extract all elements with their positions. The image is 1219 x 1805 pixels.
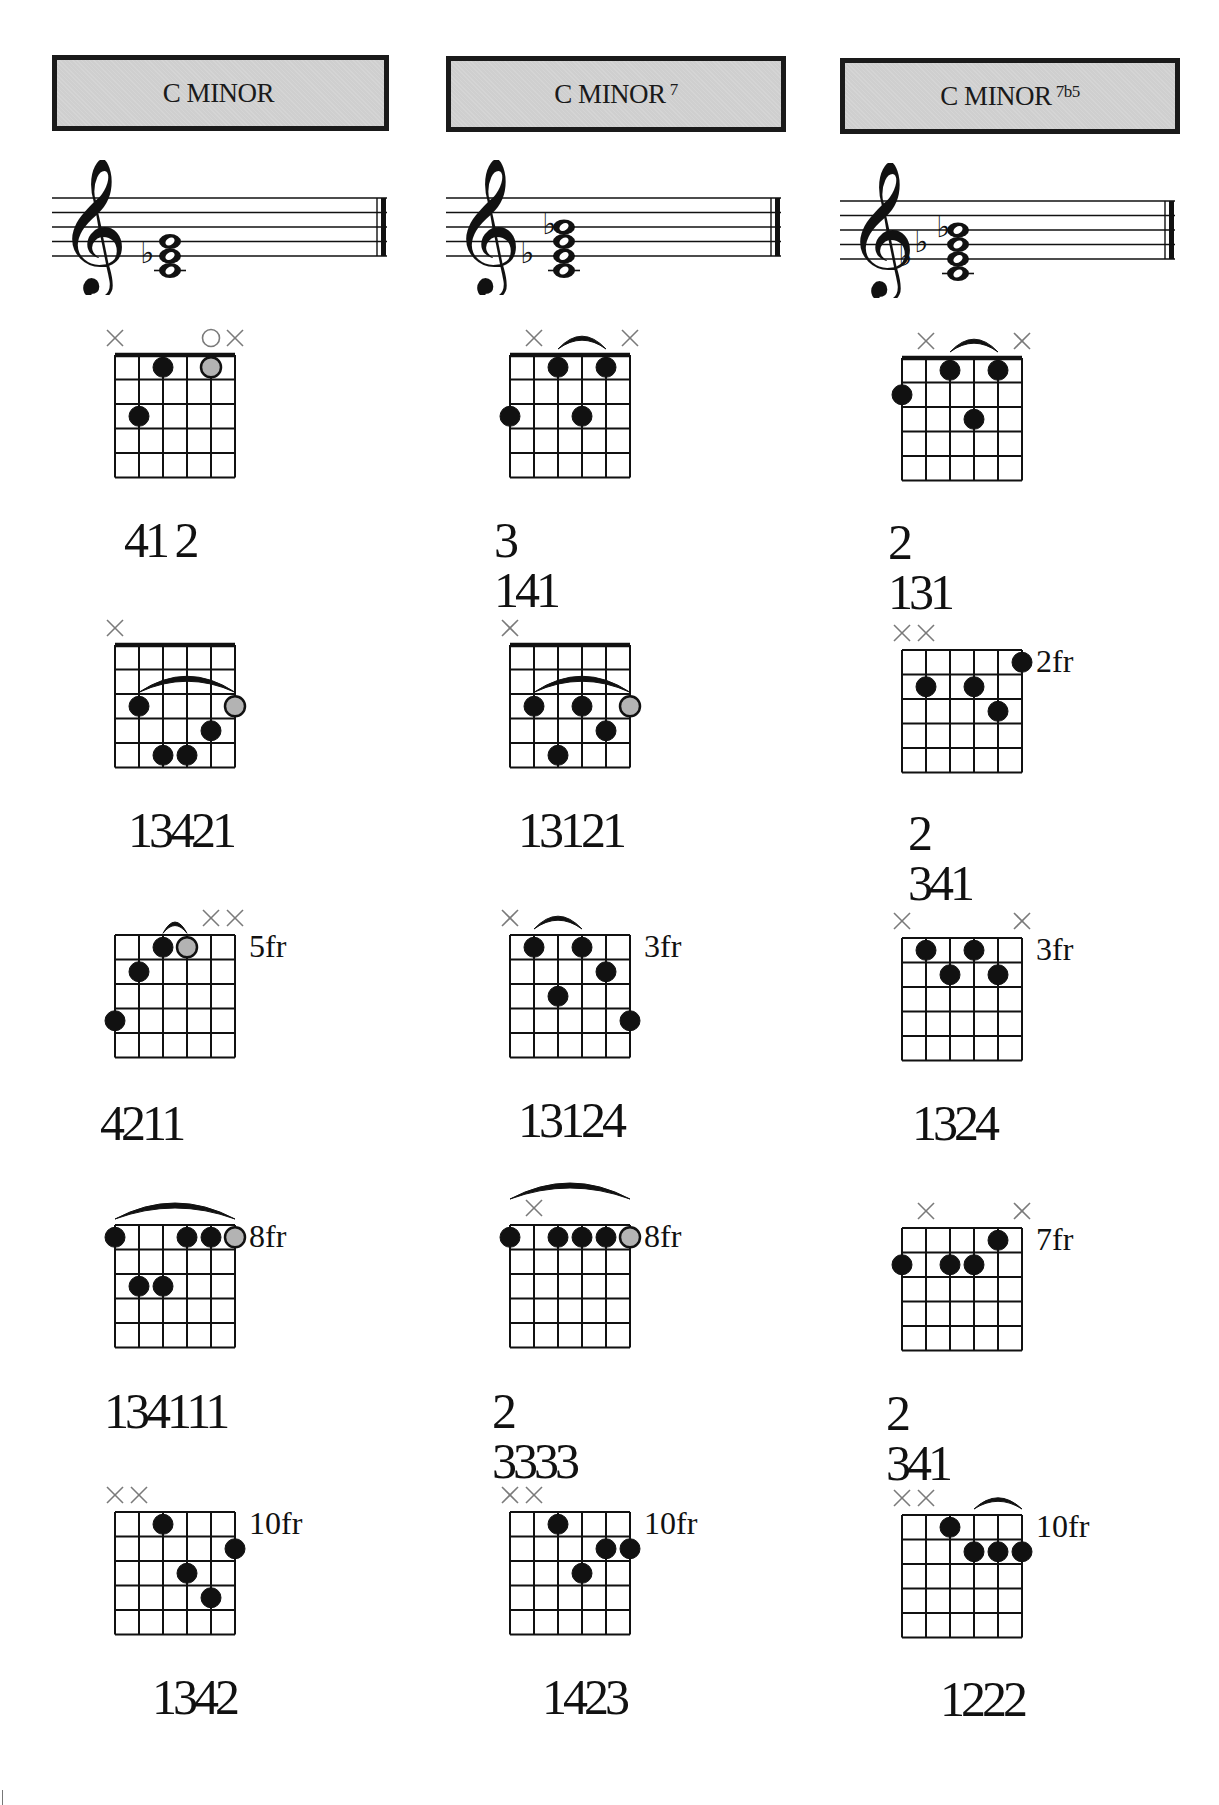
finger-dot bbox=[940, 1255, 960, 1275]
flat-accidental-icon: ♭ bbox=[520, 235, 534, 270]
muted-string-icon bbox=[502, 620, 518, 636]
fret-position-label: 2fr bbox=[1036, 643, 1074, 679]
finger-dot bbox=[940, 965, 960, 985]
barre-arc-icon bbox=[534, 916, 582, 929]
chord-superscript: 7 bbox=[670, 80, 678, 100]
finger-dot bbox=[548, 986, 568, 1006]
root-note-dot bbox=[620, 696, 640, 716]
barline-thick bbox=[1169, 201, 1174, 259]
fingering-label: 1423 bbox=[542, 1672, 626, 1722]
staff-notation: 𝄞♭♭ bbox=[446, 160, 786, 295]
muted-string-icon bbox=[918, 1203, 934, 1219]
finger-dot bbox=[596, 962, 616, 982]
finger-dot bbox=[596, 1539, 616, 1559]
fingering-label: 13124 bbox=[518, 1095, 623, 1145]
chord-diagram bbox=[490, 305, 730, 480]
finger-dot bbox=[572, 696, 592, 716]
barline-thick bbox=[775, 198, 780, 256]
fingering-label: 13121 bbox=[518, 805, 623, 855]
finger-dot bbox=[548, 1514, 568, 1534]
finger-dot bbox=[964, 1542, 984, 1562]
chord-diagram: 8fr bbox=[490, 1175, 730, 1350]
finger-dot bbox=[988, 360, 1008, 380]
flat-accidental-icon: ♭ bbox=[898, 238, 912, 273]
finger-dot bbox=[988, 965, 1008, 985]
finger-dot bbox=[620, 1011, 640, 1031]
finger-dot bbox=[916, 677, 936, 697]
chord-diagram: 3fr bbox=[882, 888, 1122, 1063]
finger-dot bbox=[572, 937, 592, 957]
finger-dot bbox=[892, 385, 912, 405]
finger-dot bbox=[988, 1230, 1008, 1250]
muted-string-icon bbox=[918, 625, 934, 641]
muted-string-icon bbox=[526, 330, 542, 346]
finger-dot bbox=[548, 357, 568, 377]
staff-notation: 𝄞♭♭♭ bbox=[840, 163, 1180, 298]
flat-accidental-icon: ♭ bbox=[936, 209, 950, 244]
finger-dot bbox=[988, 1542, 1008, 1562]
chord-title-box: C MINOR7 bbox=[446, 56, 786, 132]
chord-title: C MINOR bbox=[940, 81, 1051, 112]
finger-dot bbox=[500, 1227, 520, 1247]
page-edge-mark bbox=[2, 1790, 3, 1805]
fret-position-label: 3fr bbox=[644, 928, 682, 964]
finger-dot bbox=[596, 721, 616, 741]
chord-superscript: 7b5 bbox=[1056, 82, 1080, 102]
finger-dot bbox=[572, 1563, 592, 1583]
finger-dot bbox=[572, 1227, 592, 1247]
finger-dot bbox=[964, 677, 984, 697]
fret-position-label: 10fr bbox=[1036, 1508, 1090, 1544]
finger-dot bbox=[500, 406, 520, 426]
fret-position-label: 10fr bbox=[644, 1505, 698, 1541]
barre-arc-icon bbox=[558, 336, 606, 349]
finger-dot bbox=[964, 1255, 984, 1275]
finger-dot bbox=[940, 1517, 960, 1537]
finger-dot bbox=[964, 940, 984, 960]
finger-dot bbox=[548, 745, 568, 765]
fret-position-label: 8fr bbox=[644, 1218, 682, 1254]
flat-accidental-icon: ♭ bbox=[914, 224, 928, 259]
muted-string-icon bbox=[918, 333, 934, 349]
chord-diagram: 7fr bbox=[882, 1178, 1122, 1353]
finger-dot bbox=[1012, 1542, 1032, 1562]
muted-string-icon bbox=[894, 625, 910, 641]
finger-dot bbox=[1012, 652, 1032, 672]
muted-string-icon bbox=[502, 1487, 518, 1503]
chord-diagram: 3fr bbox=[490, 885, 730, 1060]
finger-dot bbox=[964, 409, 984, 429]
muted-string-icon bbox=[894, 1490, 910, 1506]
finger-dot bbox=[916, 940, 936, 960]
chord-diagram bbox=[490, 595, 730, 770]
muted-string-icon bbox=[894, 913, 910, 929]
chord-diagram bbox=[882, 308, 1122, 483]
muted-string-icon bbox=[502, 910, 518, 926]
finger-dot bbox=[596, 357, 616, 377]
muted-string-icon bbox=[1014, 913, 1030, 929]
barre-arc-icon bbox=[974, 1498, 1022, 1509]
muted-string-icon bbox=[1014, 333, 1030, 349]
chord-title-box: C MINOR7b5 bbox=[840, 58, 1180, 134]
treble-clef-icon: 𝄞 bbox=[452, 160, 522, 295]
barre-arc-icon bbox=[510, 1183, 630, 1199]
finger-dot bbox=[548, 1227, 568, 1247]
finger-dot bbox=[572, 406, 592, 426]
muted-string-icon bbox=[918, 1490, 934, 1506]
flat-accidental-icon: ♭ bbox=[542, 206, 556, 241]
finger-dot bbox=[940, 360, 960, 380]
treble-clef-icon: 𝄞 bbox=[846, 163, 916, 298]
fingering-label: 1222 bbox=[940, 1674, 1024, 1724]
muted-string-icon bbox=[526, 1200, 542, 1216]
chord-title: C MINOR bbox=[554, 79, 665, 110]
fingering-label: 1324 bbox=[912, 1098, 996, 1148]
fret-position-label: 3fr bbox=[1036, 931, 1074, 967]
muted-string-icon bbox=[622, 330, 638, 346]
finger-dot bbox=[892, 1255, 912, 1275]
chord-diagram: 10fr bbox=[882, 1465, 1122, 1640]
muted-string-icon bbox=[526, 1487, 542, 1503]
fret-position-label: 7fr bbox=[1036, 1221, 1074, 1257]
barre-arc-icon bbox=[950, 339, 998, 352]
finger-dot bbox=[524, 937, 544, 957]
root-note-dot bbox=[620, 1227, 640, 1247]
chord-diagram: 10fr bbox=[490, 1462, 730, 1637]
column-c-minor-7b5: C MINOR7b5 𝄞♭♭♭ 2 131 2fr 2 341 3fr 1324… bbox=[0, 0, 390, 1805]
